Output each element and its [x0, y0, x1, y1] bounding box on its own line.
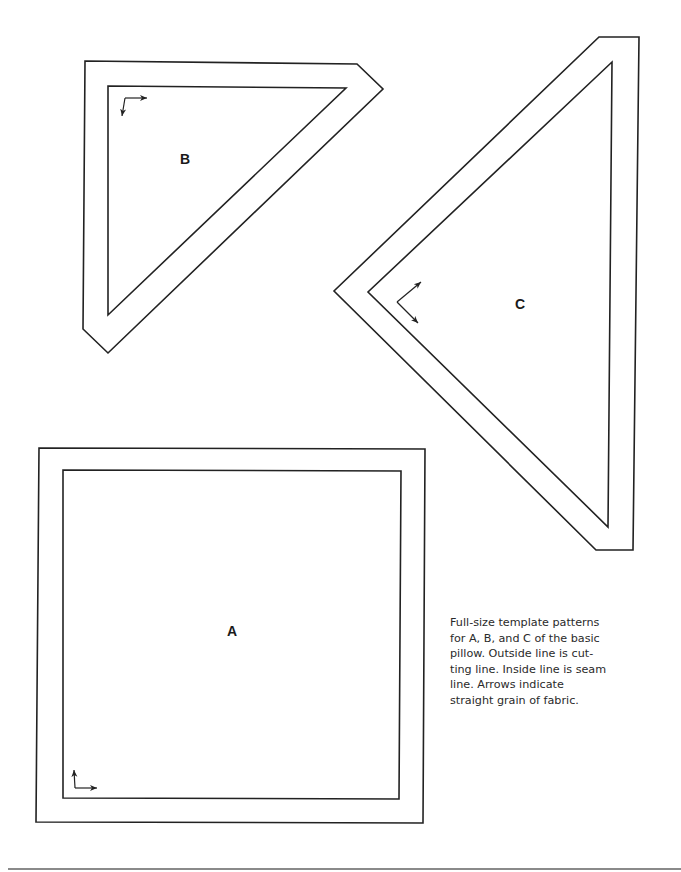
page-bottom-rule: [8, 868, 681, 870]
caption-line: for A, B, and C of the basic: [450, 631, 630, 647]
pattern-a-label: A: [227, 623, 237, 639]
caption-line: line. Arrows indicate: [450, 677, 630, 693]
pattern-c-cutting-line: [334, 37, 639, 550]
pattern-b: B: [83, 61, 383, 353]
pattern-b-seam-line: [108, 86, 346, 315]
template-patterns-figure: B C A: [0, 0, 681, 872]
pattern-c-label: C: [515, 296, 525, 312]
caption-line: pillow. Outside line is cut-: [450, 646, 630, 662]
pattern-c-seam-line: [368, 62, 612, 527]
grain-arrow-icon: [74, 770, 97, 788]
template-page: B C A Full-size template patterns for A,…: [0, 0, 681, 872]
caption-line: ting line. Inside line is seam: [450, 662, 630, 678]
caption-line: Full-size template patterns: [450, 615, 630, 631]
pattern-c: C: [334, 37, 639, 550]
grain-arrow-icon: [397, 282, 421, 323]
pattern-b-label: B: [180, 151, 190, 167]
grain-arrow-icon: [122, 98, 147, 116]
pattern-b-cutting-line: [83, 61, 383, 353]
pattern-a: A: [36, 448, 425, 823]
figure-caption: Full-size template patterns for A, B, an…: [450, 615, 630, 709]
caption-line: straight grain of fabric.: [450, 693, 630, 709]
